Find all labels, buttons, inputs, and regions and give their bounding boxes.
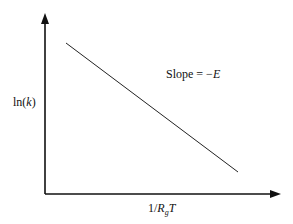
y-axis-label: ln(k) — [13, 95, 36, 110]
slope-annotation: Slope = −E — [166, 67, 220, 82]
y-axis-arrow-icon — [41, 13, 49, 24]
data-line — [66, 43, 238, 172]
chart-canvas — [0, 0, 293, 224]
x-axis-arrow-icon — [270, 190, 281, 198]
x-axis-label: 1/RgT — [148, 201, 175, 217]
